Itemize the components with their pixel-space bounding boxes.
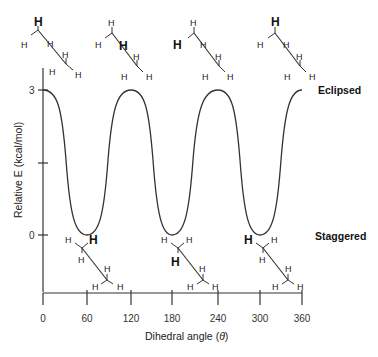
svg-text:H: H [296,52,303,62]
svg-text:H: H [161,235,168,245]
svg-text:H: H [121,72,128,82]
svg-text:H: H [75,70,82,80]
x-tick-label-360: 360 [294,313,311,324]
svg-text:H: H [283,40,290,50]
svg-text:H: H [186,235,193,245]
x-tick-label-240: 240 [210,313,227,324]
svg-text:H: H [199,264,206,274]
staggered-conformer-180: H H H H H H [161,235,219,292]
torsional-energy-chart: 3 0 Relative E (kcal/mol) 0 60 120 180 2… [0,0,378,357]
svg-text:H: H [297,282,304,292]
eclipsed-conformer-240: H H H H H H [173,18,234,82]
eclipsed-conformer-0: H H H H H H [21,15,82,80]
svg-text:H: H [187,282,194,292]
svg-text:H: H [95,40,102,50]
svg-text:H: H [108,18,115,28]
eclipsed-conformer-360: H H H H H H [257,15,316,82]
svg-text:H: H [259,255,266,265]
svg-text:H: H [202,72,209,82]
svg-text:H: H [244,233,253,247]
x-tick-label-60: 60 [81,313,93,324]
staggered-label: Staggered [315,230,366,242]
svg-text:H: H [190,18,197,28]
svg-text:H: H [34,15,43,29]
svg-text:H: H [92,282,99,292]
svg-text:H: H [212,282,219,292]
svg-text:H: H [171,255,180,269]
staggered-conformer-300: H H H H H H [244,233,304,292]
svg-text:H: H [117,282,124,292]
svg-text:H: H [21,40,28,50]
energy-curve [43,90,302,235]
y-tick-label-3: 3 [29,85,35,96]
y-axis-title: Relative E (kcal/mol) [12,122,24,218]
svg-text:H: H [309,72,316,82]
svg-text:H: H [227,72,234,82]
svg-text:H: H [146,72,153,82]
x-ticks [43,290,302,305]
svg-text:H: H [49,67,56,77]
svg-text:H: H [271,235,278,245]
x-axis-title: Dihedral angle (θ) [145,330,228,342]
svg-text:H: H [119,39,128,53]
svg-text:H: H [78,255,85,265]
svg-text:H: H [200,40,207,50]
svg-text:H: H [104,264,111,274]
svg-text:H: H [272,282,279,292]
svg-text:H: H [285,264,292,274]
svg-text:H: H [173,38,182,52]
svg-text:H: H [89,233,98,247]
x-tick-label-120: 120 [123,313,140,324]
svg-text:H: H [215,52,222,62]
y-tick-label-0: 0 [29,230,35,241]
x-tick-label-300: 300 [252,313,269,324]
svg-text:H: H [284,72,291,82]
svg-text:H: H [257,40,264,50]
x-tick-label-180: 180 [164,313,181,324]
svg-text:H: H [133,52,140,62]
svg-text:H: H [47,39,54,49]
eclipsed-conformer-120: H H H H H H [95,18,153,82]
svg-text:H: H [62,50,69,60]
staggered-conformer-60: H H H H H H [65,233,124,292]
x-tick-label-0: 0 [40,313,46,324]
svg-text:H: H [65,235,72,245]
svg-text:H: H [271,15,280,29]
eclipsed-label: Eclipsed [318,84,361,96]
